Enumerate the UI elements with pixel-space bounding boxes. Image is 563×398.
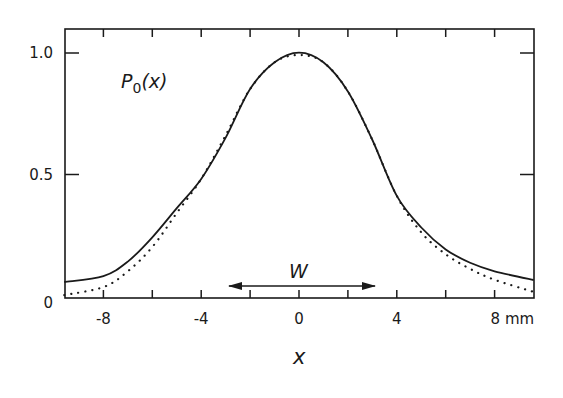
y-ticks xyxy=(65,53,534,175)
x-tick-label: -8 xyxy=(96,310,111,328)
y-tick-labels: 00.51.0 xyxy=(29,44,53,312)
x-tick-label: 0 xyxy=(294,310,304,328)
width-label: W xyxy=(289,260,309,282)
x-tick-label: 8 mm xyxy=(491,310,535,328)
x-tick-labels: -8-4048 mm xyxy=(96,310,534,328)
chart: -8-4048 mm 00.51.0 P0(x) W x xyxy=(0,0,563,398)
x-tick-label: -4 xyxy=(194,310,209,328)
curve-label: P0(x) xyxy=(121,70,167,96)
y-tick-label: 0 xyxy=(43,294,53,312)
x-axis-label: x xyxy=(292,345,306,369)
plot-frame xyxy=(65,29,534,298)
x-tick-label: 4 xyxy=(392,310,402,328)
y-tick-label: 1.0 xyxy=(29,44,53,62)
y-tick-label: 0.5 xyxy=(29,166,53,184)
